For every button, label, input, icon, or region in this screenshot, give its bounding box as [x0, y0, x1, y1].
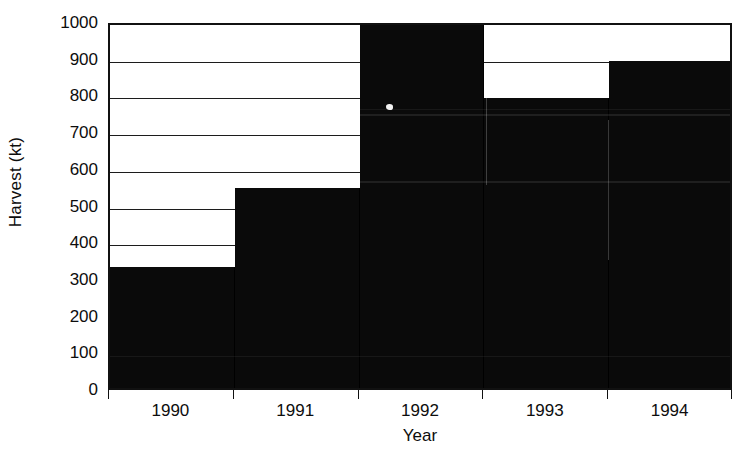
bar-series	[110, 25, 730, 388]
y-axis-tick-label: 1000	[36, 13, 98, 33]
x-axis-tick-label: 1993	[485, 401, 605, 421]
x-axis-tick-label: 1991	[235, 401, 355, 421]
x-axis-tick	[358, 390, 359, 399]
x-axis-tick	[607, 390, 608, 399]
bar-chart-figure: Harvest (kt) 010020030040050060070080090…	[0, 0, 753, 468]
x-axis-tick-label: 1994	[610, 401, 730, 421]
x-axis-tick	[233, 390, 234, 399]
y-axis-tick-label: 500	[36, 197, 98, 217]
y-axis-tick-label: 800	[36, 86, 98, 106]
x-axis-tick	[731, 390, 732, 399]
x-axis-tick	[482, 390, 483, 399]
x-axis-tick-label: 1990	[110, 401, 230, 421]
y-axis-tick-label: 200	[36, 307, 98, 327]
y-axis-title: Harvest (kt)	[6, 102, 26, 262]
bar-1991	[235, 188, 360, 388]
bar-1990	[110, 267, 235, 388]
y-axis-tick-label: 300	[36, 270, 98, 290]
y-axis-tick-labels: 01002003004005006007008009001000	[36, 23, 98, 390]
y-axis-tick-label: 400	[36, 233, 98, 253]
plot-area	[108, 23, 732, 390]
y-axis-tick-label: 900	[36, 50, 98, 70]
y-axis-tick-label: 700	[36, 123, 98, 143]
bar-1994	[609, 61, 730, 388]
x-axis-title: Year	[108, 426, 732, 446]
bar-1992	[360, 25, 485, 388]
y-axis-tick-label: 600	[36, 160, 98, 180]
y-axis-tick-label: 0	[36, 380, 98, 400]
x-axis-tick-label: 1992	[360, 401, 480, 421]
x-axis-ticks	[108, 390, 732, 399]
x-axis-tick-labels: 19901991199219931994	[108, 401, 732, 425]
x-axis-tick	[108, 390, 109, 399]
y-axis-tick-label: 100	[36, 343, 98, 363]
bar-1993	[484, 98, 609, 388]
